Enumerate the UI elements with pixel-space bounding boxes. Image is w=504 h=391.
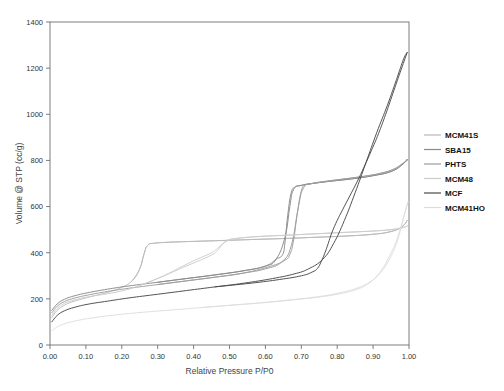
series-mcf [52,52,407,321]
y-axis-tick-group: 0200400600800100012001400 [26,18,50,350]
legend-label-phts[interactable]: PHTS [445,160,467,169]
x-axis-title: Relative Pressure P/P0 [186,366,274,376]
curve-mcm41ho-desorption [201,202,408,308]
y-tick-label: 800 [30,156,43,165]
x-tick-label: 0.90 [366,352,381,361]
x-tick-label: 0.10 [79,352,94,361]
x-tick-label: 0.20 [114,352,129,361]
x-tick-label: 0.80 [330,352,345,361]
y-tick-label: 0 [39,341,43,350]
y-tick-label: 1400 [26,18,43,27]
x-tick-label: 0.30 [150,352,165,361]
legend-label-mcf[interactable]: MCF [445,189,462,198]
legend: MCM41SSBA15PHTSMCM48MCFMCM41HO [424,131,485,213]
plot-frame [50,22,409,345]
curve-sba15-desorption [158,159,408,282]
legend-label-mcm48[interactable]: MCM48 [445,175,474,184]
y-axis-title: Volume @ STP (cc/g) [14,142,24,224]
curve-phts-desorption [158,160,408,284]
x-axis-tick-group: 0.000.100.200.300.400.500.600.700.800.90… [43,345,417,361]
y-tick-label: 1200 [26,64,43,73]
y-tick-label: 600 [30,202,43,211]
y-tick-label: 1000 [26,110,43,119]
x-tick-label: 0.60 [258,352,273,361]
y-tick-label: 200 [30,295,43,304]
x-tick-label: 1.00 [402,352,417,361]
series-mcm41ho [52,202,408,331]
x-tick-label: 0.50 [222,352,237,361]
curve-mcm41ho-adsorption [52,202,408,331]
curve-mcf-desorption [215,52,407,286]
x-tick-label: 0.40 [186,352,201,361]
series-curve-group [52,52,408,330]
x-tick-label: 0.00 [43,352,58,361]
series-mcm48 [52,226,407,316]
x-tick-label: 0.70 [294,352,309,361]
series-sba15 [52,159,407,310]
y-tick-label: 400 [30,249,43,258]
legend-label-mcm41ho[interactable]: MCM41HO [445,204,485,213]
legend-label-mcm41s[interactable]: MCM41S [445,131,479,140]
curve-sba15-adsorption [52,159,407,310]
legend-label-sba15[interactable]: SBA15 [445,146,471,155]
plot-area-border [50,22,409,345]
nitrogen-isotherm-chart: 0200400600800100012001400 0.000.100.200.… [0,0,504,391]
curve-mcm41s-adsorption [52,220,407,317]
chart-root: 0200400600800100012001400 0.000.100.200.… [0,0,504,391]
series-mcm41s [52,220,407,317]
